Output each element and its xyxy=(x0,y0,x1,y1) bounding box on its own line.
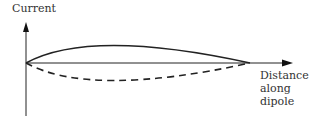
solid-current-curve xyxy=(26,46,250,64)
y-axis-arrowhead-icon xyxy=(23,22,29,32)
x-axis-arrowhead-icon xyxy=(282,60,293,67)
dashed-current-curve xyxy=(26,63,250,81)
dipole-current-diagram xyxy=(0,0,317,119)
